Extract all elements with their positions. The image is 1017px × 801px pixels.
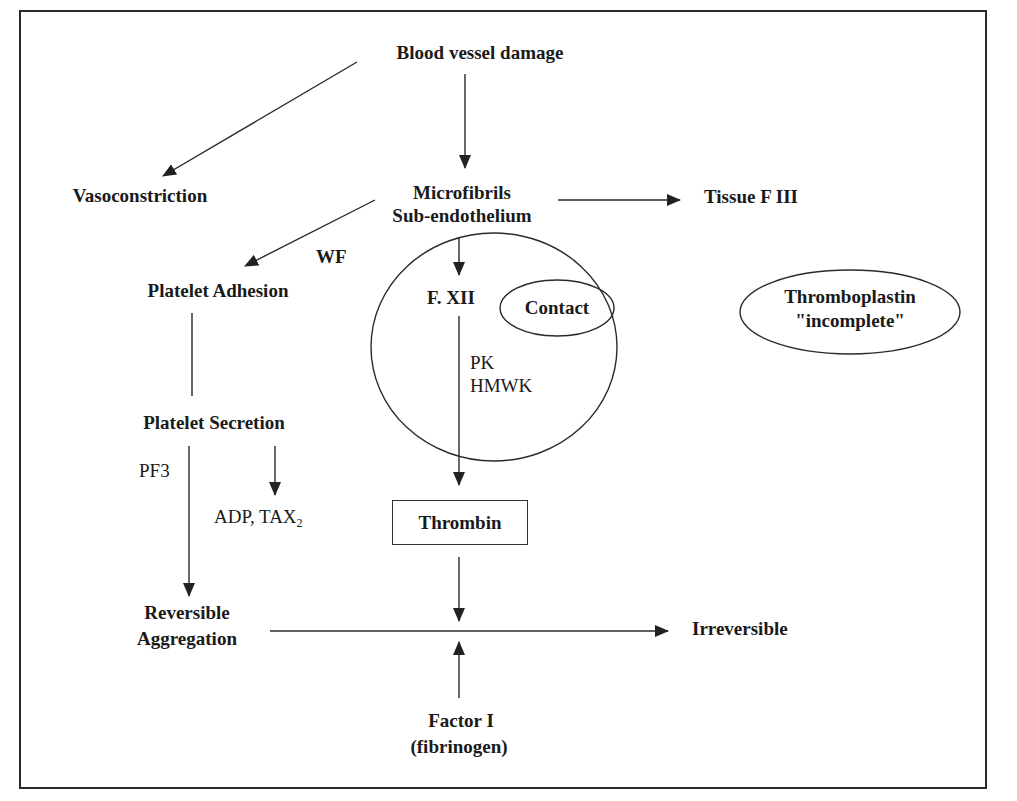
node-f12: F. XII bbox=[427, 286, 475, 310]
node-thrombin: Thrombin bbox=[418, 512, 501, 534]
label-pf3: PF3 bbox=[139, 459, 170, 483]
node-thromboplastin: Thromboplastin bbox=[784, 285, 916, 309]
diagram-connectors bbox=[0, 0, 1017, 801]
label-pk: PK bbox=[470, 351, 494, 375]
node-reversible: Reversible bbox=[144, 601, 229, 625]
label-hmwk: HMWK bbox=[470, 374, 532, 398]
adp-tax-subscript: 2 bbox=[297, 516, 303, 530]
node-tissue-f3: Tissue F III bbox=[704, 185, 798, 209]
node-fibrinogen: (fibrinogen) bbox=[410, 735, 507, 759]
node-sub-endothelium: Sub-endothelium bbox=[392, 204, 531, 228]
node-adp-tax2: ADP, TAX2 bbox=[214, 505, 303, 535]
node-aggregation: Aggregation bbox=[137, 627, 237, 651]
arrow-damage-to-vasoconstriction bbox=[163, 62, 357, 176]
node-thromboplastin-incomplete: "incomplete" bbox=[795, 309, 905, 333]
node-thrombin-box: Thrombin bbox=[392, 500, 528, 545]
label-wf: WF bbox=[316, 245, 347, 269]
contact-system-circle bbox=[371, 233, 617, 461]
arrow-microfibrils-to-adhesion bbox=[245, 200, 375, 266]
node-platelet-secretion: Platelet Secretion bbox=[143, 411, 285, 435]
adp-tax-text: ADP, TAX bbox=[214, 506, 297, 527]
node-irreversible: Irreversible bbox=[692, 617, 788, 641]
node-vasoconstriction: Vasoconstriction bbox=[73, 184, 207, 208]
node-contact: Contact bbox=[525, 296, 589, 320]
node-platelet-adhesion: Platelet Adhesion bbox=[148, 279, 289, 303]
node-blood-vessel-damage: Blood vessel damage bbox=[397, 41, 564, 65]
node-factor1: Factor I bbox=[428, 709, 494, 733]
node-microfibrils: Microfibrils bbox=[413, 181, 511, 205]
